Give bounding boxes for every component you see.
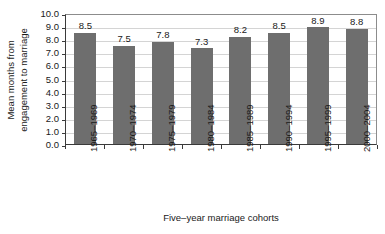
x-axis-tick-mark	[221, 145, 222, 149]
x-axis-tick-label: 2000–2004	[362, 104, 372, 152]
y-axis-tick-label: 5.0	[46, 75, 59, 85]
x-axis-tick-label: 1985–1989	[245, 104, 255, 152]
y-axis-tick-label: 4.0	[46, 88, 59, 98]
x-axis-tick-mark	[260, 145, 261, 149]
x-axis-tick-label-cell: 1965–1969	[65, 150, 104, 206]
x-axis-tick-label: 1990–1994	[284, 104, 294, 152]
y-axis-tick-label: 6.0	[46, 62, 59, 72]
bar-value-label: 7.3	[182, 37, 221, 47]
x-axis-tick-labels: 1965–19691970–19741975–19791980–19841985…	[65, 150, 377, 206]
y-axis-tick-label: 0.0	[46, 140, 59, 150]
y-axis-tick-label: 7.0	[46, 49, 59, 59]
bar-chart-figure: Mean months from engagement to marriage …	[0, 0, 385, 234]
y-axis-tick-label: 9.0	[46, 22, 59, 32]
x-axis-tick-mark	[182, 145, 183, 149]
x-axis-tick-label-cell: 2000–2004	[338, 150, 377, 206]
y-axis-title-line-1: Mean months from	[4, 28, 17, 132]
x-axis-tick-label-cell: 1975–1979	[143, 150, 182, 206]
x-axis-tick-mark	[104, 145, 105, 149]
y-axis-tick-label: 8.0	[46, 35, 59, 45]
bar-value-label: 8.5	[66, 21, 105, 31]
bar-value-label: 7.8	[144, 30, 183, 40]
x-axis-tick-label-cell: 1990–1994	[260, 150, 299, 206]
x-axis-tick-label: 1975–1979	[167, 104, 177, 152]
bar-value-label: 7.5	[105, 34, 144, 44]
x-axis-tick-mark	[338, 145, 339, 149]
x-axis-tick-mark	[377, 145, 378, 149]
x-axis-tick-mark	[65, 145, 66, 149]
x-axis-tick-mark	[299, 145, 300, 149]
x-axis-tick-label-cell: 1980–1984	[182, 150, 221, 206]
y-axis-title-line-2: engagement to marriage	[17, 28, 30, 132]
x-axis-title: Five–year marriage cohorts	[65, 212, 377, 223]
x-axis-tick-label: 1980–1984	[206, 104, 216, 152]
y-axis-tick-label: 10.0	[41, 9, 60, 19]
x-axis-tick-label: 1970–1974	[128, 104, 138, 152]
y-axis-tick-label: 3.0	[46, 101, 59, 111]
x-axis-tick-mark	[143, 145, 144, 149]
x-axis-tick-label-cell: 1985–1989	[221, 150, 260, 206]
x-axis-tick-label: 1995–1999	[323, 104, 333, 152]
bar-value-label: 8.8	[337, 17, 376, 27]
bar-value-label: 8.2	[221, 25, 260, 35]
x-axis-tick-label-cell: 1995–1999	[299, 150, 338, 206]
x-axis-tick-label-cell: 1970–1974	[104, 150, 143, 206]
y-axis-tick-label: 1.0	[46, 127, 59, 137]
x-axis-tick-label: 1965–1969	[89, 104, 99, 152]
y-axis-tick-labels: 10.09.08.07.06.05.04.03.02.01.00.0	[34, 14, 62, 145]
y-axis-tick-label: 2.0	[46, 114, 59, 124]
y-axis-title: Mean months from engagement to marriage	[0, 0, 34, 160]
bar-value-label: 8.9	[299, 16, 338, 26]
bar-value-label: 8.5	[260, 21, 299, 31]
